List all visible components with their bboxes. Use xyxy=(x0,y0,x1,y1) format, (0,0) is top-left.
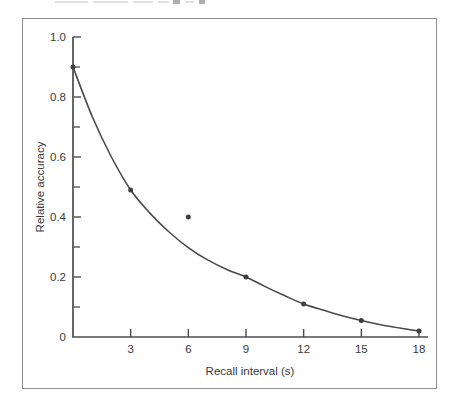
decay-curve xyxy=(73,67,419,331)
x-tick-label: 3 xyxy=(127,343,133,355)
y-tick-label: 0 xyxy=(60,331,66,343)
data-point xyxy=(301,302,306,307)
forgetting-curve-chart: 00.20.40.60.81.0369121518 Recall interva… xyxy=(0,0,452,409)
data-point xyxy=(417,329,422,334)
data-point-outlier xyxy=(186,215,191,220)
y-tick-label: 0.8 xyxy=(50,91,66,103)
y-tick-label: 1.0 xyxy=(50,31,66,43)
figure-page: { "top_cropped_text": { "legible": false… xyxy=(0,0,452,409)
tick-marks xyxy=(73,37,419,337)
tick-labels: 00.20.40.60.81.0369121518 xyxy=(50,31,425,355)
y-tick-label: 0.4 xyxy=(50,211,67,223)
y-tick-label: 0.2 xyxy=(50,271,66,283)
y-tick-label: 0.6 xyxy=(50,151,66,163)
data-point xyxy=(128,188,133,193)
x-tick-label: 18 xyxy=(413,343,426,355)
data-point xyxy=(244,275,249,280)
data-point xyxy=(359,318,364,323)
x-tick-label: 15 xyxy=(355,343,368,355)
data-points xyxy=(71,65,422,334)
data-point xyxy=(71,65,76,70)
x-axis-label: Recall interval (s) xyxy=(206,365,295,377)
axis-lines xyxy=(73,37,428,337)
x-tick-label: 12 xyxy=(297,343,310,355)
x-tick-label: 9 xyxy=(243,343,249,355)
x-tick-label: 6 xyxy=(185,343,191,355)
axes xyxy=(73,37,428,337)
y-axis-label: Relative accuracy xyxy=(34,141,46,232)
